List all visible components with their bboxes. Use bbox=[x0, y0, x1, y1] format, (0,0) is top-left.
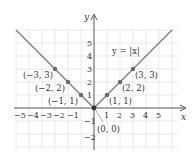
svg-text:(−1, 1): (−1, 1) bbox=[48, 96, 78, 106]
abs-value-graph: x y −5 −4 −3 −2 −1 1 2 3 4 5 5 4 3 2 1 −… bbox=[0, 0, 195, 158]
svg-text:4: 4 bbox=[143, 111, 148, 120]
y-axis-label: y bbox=[83, 12, 90, 22]
svg-text:(−2, 2): (−2, 2) bbox=[35, 83, 65, 93]
svg-text:−2: −2 bbox=[53, 111, 65, 120]
svg-text:(3, 3): (3, 3) bbox=[135, 70, 158, 80]
svg-text:(−3, 3): (−3, 3) bbox=[23, 70, 53, 80]
svg-text:5: 5 bbox=[156, 111, 161, 120]
svg-text:1: 1 bbox=[87, 91, 92, 100]
svg-text:3: 3 bbox=[130, 111, 135, 120]
svg-text:2: 2 bbox=[87, 78, 92, 87]
svg-text:(1, 1): (1, 1) bbox=[109, 96, 132, 106]
svg-text:(2, 2): (2, 2) bbox=[122, 83, 145, 93]
svg-text:1: 1 bbox=[104, 111, 109, 120]
svg-text:−1: −1 bbox=[67, 111, 79, 120]
svg-text:−5: −5 bbox=[14, 111, 26, 120]
function-label: y = |x| bbox=[111, 46, 140, 57]
svg-text:−2: −2 bbox=[84, 133, 96, 142]
svg-text:−4: −4 bbox=[27, 111, 39, 120]
origin-leader bbox=[95, 109, 103, 122]
svg-text:4: 4 bbox=[87, 52, 92, 61]
svg-text:2: 2 bbox=[117, 111, 122, 120]
svg-text:−1: −1 bbox=[84, 117, 96, 126]
svg-text:−3: −3 bbox=[40, 111, 52, 120]
svg-text:(0, 0): (0, 0) bbox=[97, 124, 120, 134]
svg-text:5: 5 bbox=[87, 39, 92, 48]
svg-text:3: 3 bbox=[87, 65, 92, 74]
x-axis-label: x bbox=[181, 112, 186, 122]
